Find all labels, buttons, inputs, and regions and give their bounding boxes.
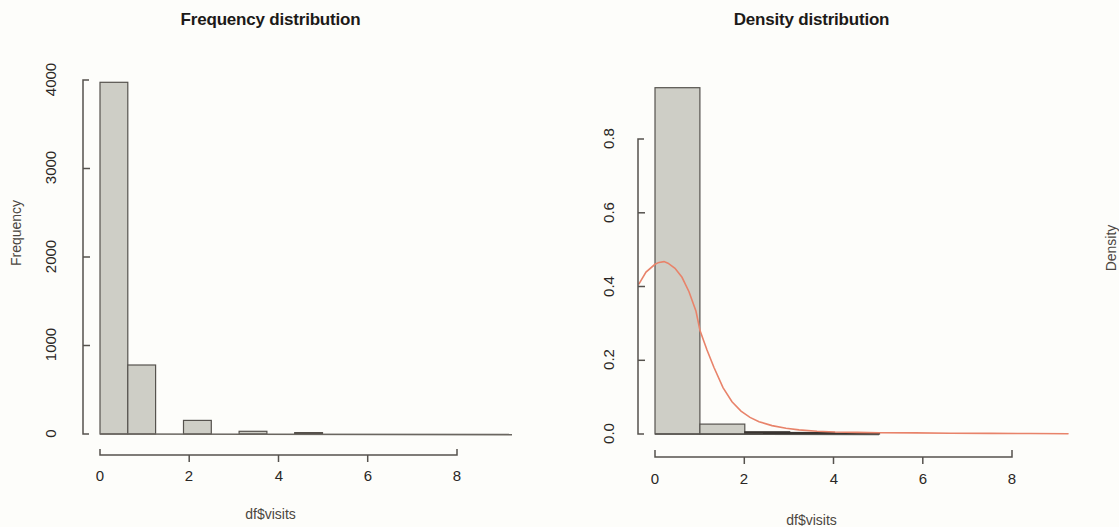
y-axis — [638, 139, 645, 434]
frequency-histogram-plot — [0, 0, 541, 527]
y-tick-label: 1000 — [42, 320, 59, 370]
density-distribution-panel: Density distribution 0.0 0.2 — [541, 0, 1082, 527]
y-tick-label: 3000 — [42, 143, 59, 193]
x-axis — [100, 449, 457, 462]
histogram-bar — [128, 365, 156, 434]
histogram-bar — [184, 420, 212, 434]
y-tick-label: 0.2 — [600, 335, 617, 385]
y-tick-label: 0 — [42, 409, 59, 459]
x-tick-label: 2 — [174, 467, 204, 484]
frequency-distribution-panel: Frequency distribution 0 1000 2000 — [0, 0, 541, 527]
y-axis — [83, 80, 90, 434]
x-tick-label: 0 — [85, 467, 115, 484]
histogram-baseline — [100, 434, 512, 435]
x-tick-label: 0 — [640, 470, 670, 487]
x-tick-label: 6 — [353, 467, 383, 484]
x-tick-label: 8 — [442, 467, 472, 484]
x-tick-label: 8 — [997, 470, 1027, 487]
y-axis-title: Frequency — [8, 193, 24, 273]
y-tick-label: 0.6 — [600, 188, 617, 238]
y-axis-title: Density — [1103, 208, 1119, 288]
x-tick-label: 2 — [729, 470, 759, 487]
histogram-bar — [700, 424, 745, 434]
x-tick-label: 4 — [264, 467, 294, 484]
y-tick-label: 0.8 — [600, 114, 617, 164]
density-histogram-plot — [541, 0, 1082, 527]
x-tick-label: 6 — [908, 470, 938, 487]
x-axis — [655, 450, 1012, 464]
y-tick-label: 2000 — [42, 232, 59, 282]
y-tick-label: 0.0 — [600, 409, 617, 459]
histogram-bars — [655, 88, 880, 434]
x-tick-label: 4 — [819, 470, 849, 487]
y-tick-label: 0.4 — [600, 262, 617, 312]
histogram-bar — [100, 82, 128, 434]
x-axis-title: df$visits — [0, 506, 541, 522]
histogram-bars — [100, 82, 323, 434]
x-axis-title: df$visits — [541, 512, 1082, 527]
density-curve — [639, 262, 1068, 434]
histogram-bar — [655, 88, 700, 434]
y-tick-label: 4000 — [42, 55, 59, 105]
